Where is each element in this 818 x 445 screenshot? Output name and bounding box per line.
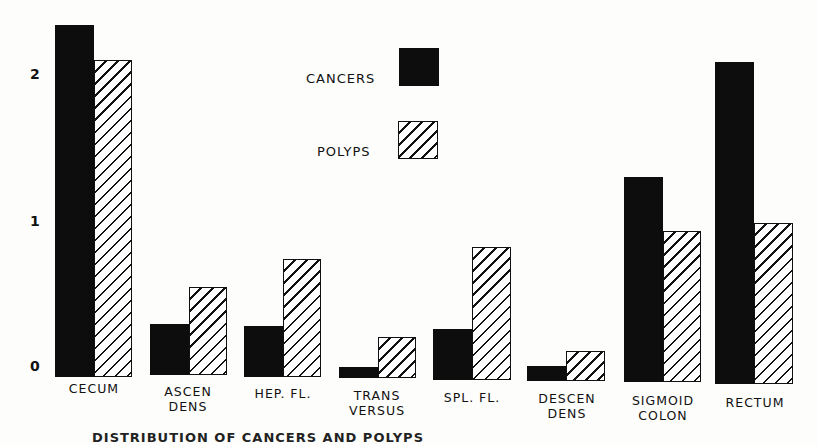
x-label-trans: TRANSVERSUS <box>322 388 432 418</box>
y-tick-1: 1 <box>30 213 40 229</box>
bar-hep-cancers <box>244 326 283 377</box>
x-label-rectum: RECTUM <box>700 395 810 410</box>
bar-spl-cancers <box>433 329 472 380</box>
figure-caption: DISTRIBUTION OF CANCERS AND POLYPS <box>92 430 424 445</box>
bar-hep-polyps <box>283 259 321 377</box>
bar-cecum-polyps <box>94 60 132 377</box>
bar-trans-polyps <box>378 337 416 378</box>
bar-spl-polyps <box>472 247 511 380</box>
y-tick-0: 0 <box>30 358 40 374</box>
bar-rectum-cancers <box>715 62 754 384</box>
bar-ascen-polyps <box>189 287 227 375</box>
bar-cecum-cancers <box>55 25 94 377</box>
legend-swatch-cancers <box>399 48 439 86</box>
legend-label-polyps: POLYPS <box>317 144 371 159</box>
bar-sigmoid-cancers <box>624 177 663 382</box>
bar-sigmoid-polyps <box>663 231 701 382</box>
x-label-ascen: ASCENDENS <box>133 384 243 414</box>
x-label-spl: SPL. FL. <box>417 390 527 405</box>
y-tick-2: 2 <box>30 66 40 82</box>
legend-label-cancers: CANCERS <box>306 71 375 86</box>
bar-rectum-polyps <box>754 223 793 384</box>
bar-ascen-cancers <box>150 324 189 375</box>
x-label-descen: DESCENDENS <box>512 391 622 421</box>
legend-swatch-polyps <box>398 121 438 159</box>
bar-trans-cancers <box>339 367 378 378</box>
bar-descen-polyps <box>566 351 605 381</box>
bar-descen-cancers <box>527 366 566 381</box>
